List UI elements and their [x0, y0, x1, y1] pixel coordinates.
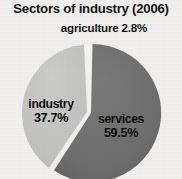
- industry-slice-label: industry 37.7%: [20, 98, 82, 125]
- services-label-value: 59.5%: [88, 127, 154, 141]
- services-label-name: services: [88, 113, 154, 127]
- services-slice-label: services 59.5%: [88, 113, 154, 140]
- pie-graphic: industry 37.7% services 59.5%: [0, 0, 182, 179]
- industry-label-value: 37.7%: [20, 112, 82, 126]
- pie-svg: [0, 0, 182, 179]
- industry-label-name: industry: [20, 98, 82, 112]
- pie-chart-figure: Sectors of industry (2006) agriculture 2…: [0, 0, 182, 179]
